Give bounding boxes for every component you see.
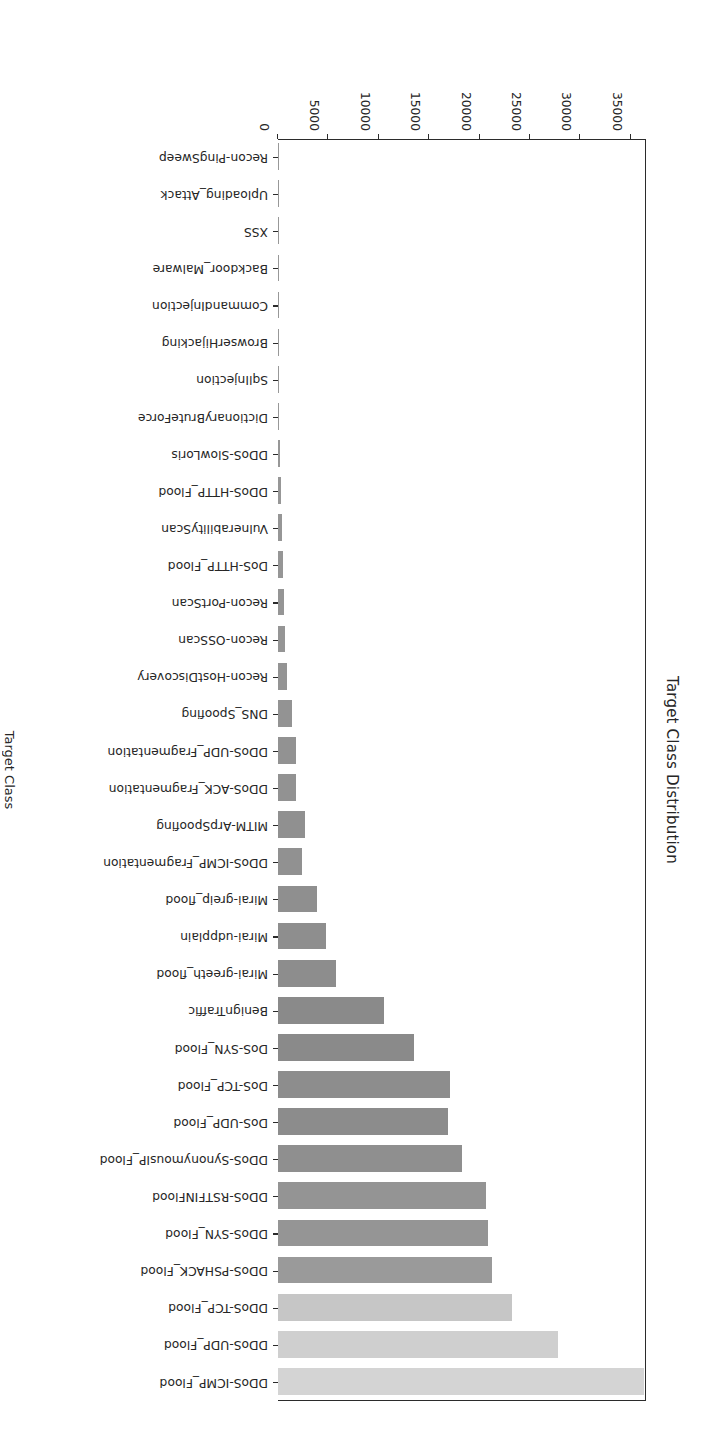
category-tick-item: DDoS-TCP_Flood [168, 1302, 278, 1314]
category-tick-label: SqlInjection [196, 374, 268, 386]
category-tick-item: Recon-OSScan [178, 634, 278, 646]
count-tick-label: 25000 [509, 92, 523, 131]
category-tick-mark [273, 157, 278, 158]
category-tick-label: Recon-PingSweep [159, 151, 268, 163]
category-tick-mark [273, 343, 278, 344]
category-tick-item: Recon-HostDiscovery [137, 671, 278, 683]
bar-row [278, 589, 646, 616]
category-tick-mark [273, 677, 278, 678]
category-tick-label: Recon-PortScan [172, 597, 268, 609]
bar-row [278, 1257, 646, 1284]
category-tick-mark [273, 862, 278, 863]
category-tick-label: Uploading_Attack [160, 189, 268, 201]
category-tick-mark [273, 454, 278, 455]
category-tick-item: Backdoor_Malware [153, 263, 278, 275]
bar [278, 1071, 450, 1098]
category-tick-mark [273, 1271, 278, 1272]
bar [278, 737, 296, 764]
category-tick-mark [273, 380, 278, 381]
category-tick-label: DDoS-ICMP_Fragmentation [103, 857, 268, 869]
category-tick-mark [273, 1085, 278, 1086]
category-tick-item: DoS-HTTP_Flood [168, 560, 278, 572]
category-tick-label: Recon-OSScan [178, 634, 268, 646]
bar [278, 440, 280, 467]
category-tick-label: XSS [244, 226, 268, 238]
category-tick-mark [273, 268, 278, 269]
bar-row [278, 1108, 646, 1135]
bar-row [278, 997, 646, 1024]
count-tick-mark [327, 134, 328, 139]
category-tick-mark [273, 714, 278, 715]
category-tick-label: BrowserHijacking [162, 337, 268, 349]
category-tick-label: CommandInjection [152, 300, 268, 312]
count-tick-label: 5000 [307, 100, 321, 131]
bar [278, 514, 282, 541]
bar [278, 774, 296, 801]
category-tick-mark [273, 974, 278, 975]
count-tick-mark [579, 134, 580, 139]
bar [278, 1257, 492, 1284]
bar-row [278, 1368, 646, 1395]
bar-row [278, 255, 646, 282]
bar-row [278, 663, 646, 690]
bar [278, 292, 279, 319]
plot-area [278, 139, 646, 1401]
bar [278, 1294, 512, 1321]
bar [278, 255, 279, 282]
category-tick-label: Mirai-greeth_flood [156, 968, 268, 980]
bar [278, 1145, 462, 1172]
bar [278, 143, 279, 170]
category-tick-item: DDoS-SYN_Flood [165, 1228, 278, 1240]
category-tick-label: Mirai-udpplain [180, 931, 268, 943]
category-tick-item: DDoS-UDP_Flood [164, 1339, 278, 1351]
bar-row [278, 217, 646, 244]
figure-rotation-wrapper: Target Class Distribution DDoS-ICMP_Floo… [0, 0, 707, 1437]
category-tick-label: DDoS-RSTFINFlood [152, 1191, 268, 1203]
category-axis: DDoS-ICMP_FloodDDoS-UDP_FloodDDoS-TCP_Fl… [0, 139, 278, 1401]
category-tick-item: DictionaryBruteForce [138, 411, 278, 423]
category-tick-item: DDoS-RSTFINFlood [152, 1191, 278, 1203]
category-tick-label: Recon-HostDiscovery [137, 671, 268, 683]
category-tick-mark [273, 640, 278, 641]
bar-row [278, 1331, 646, 1358]
category-tick-mark [273, 602, 278, 603]
category-tick-mark [273, 825, 278, 826]
category-tick-mark [273, 1048, 278, 1049]
category-tick-item: DoS-UDP_Flood [173, 1117, 278, 1129]
category-tick-label: DictionaryBruteForce [138, 411, 268, 423]
category-tick-item: DDoS-UDP_Fragmentation [107, 745, 278, 757]
category-tick-mark [273, 1308, 278, 1309]
category-tick-label: VulnerabilityScan [161, 523, 268, 535]
category-tick-mark [273, 1159, 278, 1160]
bar-row [278, 811, 646, 838]
bar [278, 886, 317, 913]
category-tick-item: VulnerabilityScan [161, 523, 278, 535]
bar-row [278, 1183, 646, 1210]
bar-row [278, 366, 646, 393]
category-tick-label: DDoS-TCP_Flood [168, 1302, 268, 1314]
category-tick-mark [273, 491, 278, 492]
category-tick-mark [273, 1122, 278, 1123]
bar [278, 848, 302, 875]
target-class-axis-label: Target Class [2, 731, 17, 810]
category-tick-label: Mirai-greip_flood [165, 894, 268, 906]
bar-row [278, 514, 646, 541]
category-tick-item: DDoS-ICMP_Fragmentation [103, 857, 278, 869]
bar-row [278, 923, 646, 950]
bar [278, 477, 281, 504]
category-tick-item: XSS [244, 226, 278, 238]
category-tick-label: DDoS-SYN_Flood [165, 1228, 268, 1240]
bar [278, 180, 279, 207]
category-tick-item: Mirai-udpplain [180, 931, 278, 943]
count-tick-mark [277, 134, 278, 139]
bar-row [278, 1220, 646, 1247]
category-tick-item: DNS_Spoofing [181, 708, 278, 720]
category-tick-mark [273, 305, 278, 306]
bar-row [278, 143, 646, 170]
category-tick-item: BrowserHijacking [162, 337, 278, 349]
bar-row [278, 1071, 646, 1098]
bar-row [278, 403, 646, 430]
count-tick-label: 20000 [459, 92, 473, 131]
category-tick-mark [273, 788, 278, 789]
category-tick-mark [273, 565, 278, 566]
